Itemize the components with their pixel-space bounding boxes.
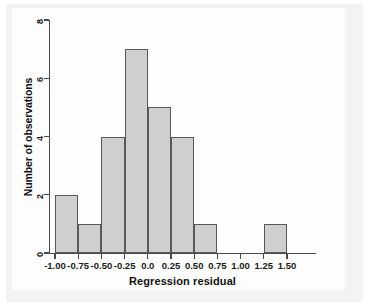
x-axis-tick (101, 254, 102, 259)
y-axis-title: Number of observations (22, 20, 38, 254)
histogram-bar (264, 224, 287, 253)
histogram-figure: 02468 -1.00-0.75-0.50-0.250.00.250.500.7… (0, 0, 369, 307)
histogram-bar (101, 137, 124, 254)
histogram-bar (125, 49, 148, 253)
x-axis-title: Regression residual (49, 275, 316, 287)
x-axis-tick (217, 254, 218, 259)
x-axis-tick-label: 1.50 (270, 260, 304, 271)
histogram-bar (78, 224, 101, 253)
x-axis-tick (78, 254, 79, 259)
x-axis-tick (286, 254, 287, 259)
x-axis-tick (263, 254, 264, 259)
histogram-bars (49, 20, 316, 254)
x-axis-tick (124, 254, 125, 259)
x-axis-tick (54, 254, 55, 259)
x-axis-tick (170, 254, 171, 259)
histogram-bar (194, 224, 217, 253)
histogram-bar (171, 137, 194, 254)
histogram-bar (148, 107, 171, 253)
x-axis-tick (147, 254, 148, 259)
x-axis-tick (194, 254, 195, 259)
histogram-bar (55, 195, 78, 253)
x-axis-tick (240, 254, 241, 259)
